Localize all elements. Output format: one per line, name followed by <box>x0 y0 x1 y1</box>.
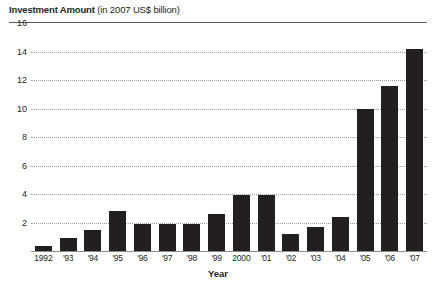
bar-slot <box>254 23 279 251</box>
investment-amount-bar-chart: Investment Amount (in 2007 US$ billion) … <box>0 0 436 291</box>
bar-slot <box>402 23 427 251</box>
bar-slot <box>130 23 155 251</box>
bar-slot <box>155 23 180 251</box>
bar-slot <box>303 23 328 251</box>
bar-slot <box>378 23 403 251</box>
bar-slot <box>229 23 254 251</box>
chart-title-main: Investment Amount <box>9 4 95 15</box>
bar-slot <box>328 23 353 251</box>
x-tick-label: '93 <box>56 253 81 264</box>
x-tick-label: '03 <box>303 253 328 264</box>
y-tick-label: 4 <box>22 190 27 199</box>
bar-03 <box>307 227 324 251</box>
x-axis-tick-labels: 1992'93'94'95'96'97'98'992000'01'02'03'0… <box>31 253 427 264</box>
x-axis-baseline <box>31 251 427 252</box>
y-tick-label: 2 <box>22 218 27 227</box>
bar-02 <box>282 234 299 251</box>
y-tick-label: 16 <box>17 19 27 28</box>
x-tick-label: '98 <box>180 253 205 264</box>
x-tick-label: 1992 <box>31 253 56 264</box>
y-tick-label: 14 <box>17 47 27 56</box>
x-tick-label: '96 <box>130 253 155 264</box>
x-tick-label: '07 <box>402 253 427 264</box>
bar-slot <box>105 23 130 251</box>
x-tick-label: '02 <box>279 253 304 264</box>
x-tick-label: '95 <box>105 253 130 264</box>
bar-slot <box>81 23 106 251</box>
bar-06 <box>381 86 398 251</box>
bar-slot <box>279 23 304 251</box>
bar-99 <box>208 214 225 251</box>
x-tick-label: '99 <box>204 253 229 264</box>
bars-layer <box>31 23 427 251</box>
x-tick-label: '06 <box>378 253 403 264</box>
y-tick-label: 12 <box>17 76 27 85</box>
bar-slot <box>353 23 378 251</box>
x-tick-label: 2000 <box>229 253 254 264</box>
x-tick-label: '05 <box>353 253 378 264</box>
bar-05 <box>357 109 374 252</box>
y-tick-label: 6 <box>22 161 27 170</box>
y-tick-label: 10 <box>17 104 27 113</box>
bar-2000 <box>233 195 250 251</box>
bar-01 <box>258 195 275 251</box>
bar-07 <box>406 49 423 251</box>
bar-98 <box>183 224 200 251</box>
chart-title: Investment Amount (in 2007 US$ billion) <box>9 4 180 16</box>
x-tick-label: '04 <box>328 253 353 264</box>
bar-97 <box>159 224 176 251</box>
x-tick-label: '94 <box>81 253 106 264</box>
bar-94 <box>84 230 101 251</box>
bar-slot <box>204 23 229 251</box>
bar-95 <box>109 211 126 251</box>
bar-slot <box>56 23 81 251</box>
bar-96 <box>134 224 151 251</box>
bar-93 <box>60 238 77 251</box>
bar-04 <box>332 217 349 251</box>
plot-area: 246810121416 <box>31 23 427 251</box>
x-tick-label: '97 <box>155 253 180 264</box>
chart-title-subtitle: (in 2007 US$ billion) <box>95 4 180 15</box>
x-axis-title: Year <box>0 268 436 279</box>
bar-slot <box>180 23 205 251</box>
x-tick-label: '01 <box>254 253 279 264</box>
bar-slot <box>31 23 56 251</box>
y-tick-label: 8 <box>22 133 27 142</box>
